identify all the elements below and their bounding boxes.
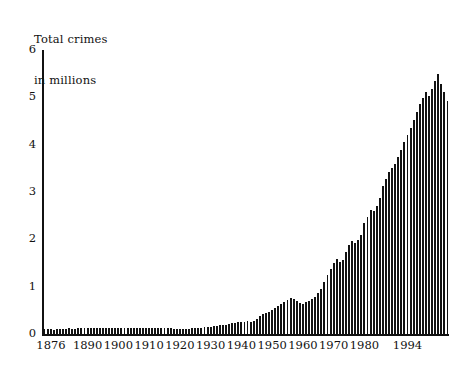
bar (305, 302, 307, 334)
bar (419, 104, 421, 334)
bar (379, 198, 381, 334)
bar (222, 325, 224, 334)
bar (440, 84, 442, 334)
bar (290, 298, 292, 334)
bar (403, 142, 405, 334)
bar (210, 327, 212, 334)
bar (394, 164, 396, 334)
bar (204, 327, 206, 334)
y-tick-label: 0 (14, 328, 36, 340)
bar (237, 322, 239, 334)
y-tick-label: 6 (14, 44, 36, 56)
bar (437, 74, 439, 334)
bar (308, 301, 310, 334)
bar (431, 89, 433, 334)
x-tick-label: 1980 (350, 339, 379, 352)
y-tick-label: 3 (14, 186, 36, 198)
axis-caption-line-1: Total crimes (34, 33, 108, 47)
bar (351, 241, 353, 334)
x-tick-label: 1970 (319, 339, 348, 352)
bar (271, 310, 273, 334)
x-tick-label: 1876 (36, 339, 65, 352)
bar (327, 275, 329, 334)
bar (345, 252, 347, 334)
bar (428, 96, 430, 334)
bar (293, 299, 295, 334)
bar (314, 297, 316, 334)
bar (391, 168, 393, 334)
y-axis-tick-labels: 0123456 (8, 0, 36, 374)
bar (234, 323, 236, 334)
bar (357, 240, 359, 334)
bar (259, 316, 261, 334)
bar (413, 120, 415, 334)
crime-bar-chart: Total crimes in millions 0123456 1876189… (0, 0, 469, 374)
bar (363, 223, 365, 334)
bar (422, 98, 424, 334)
x-axis-tick-labels: 1876189019001910192019301940195019601970… (0, 339, 469, 359)
x-axis-line (42, 334, 449, 336)
bar (388, 172, 390, 334)
bar (262, 314, 264, 334)
y-tick-label: 4 (14, 139, 36, 151)
bar (287, 300, 289, 334)
bar (447, 101, 449, 334)
bar (339, 262, 341, 334)
x-tick-label: 1950 (258, 339, 287, 352)
bar (397, 157, 399, 335)
bar (317, 293, 319, 334)
bar (410, 128, 412, 334)
bar (216, 326, 218, 334)
bar (333, 263, 335, 334)
bar (416, 112, 418, 334)
bar (207, 327, 209, 334)
bar (443, 92, 445, 334)
bar (219, 325, 221, 334)
bar (407, 135, 409, 334)
bar (382, 186, 384, 334)
x-tick-label: 1910 (134, 339, 163, 352)
bar (299, 303, 301, 334)
x-tick-label: 1890 (73, 339, 102, 352)
x-tick-label: 1960 (288, 339, 317, 352)
x-tick-label: 1920 (165, 339, 194, 352)
bar (244, 322, 246, 334)
bar (320, 289, 322, 334)
bar-series (43, 50, 449, 334)
bar (302, 304, 304, 334)
bar (253, 321, 255, 334)
bar (434, 81, 436, 334)
bar (311, 299, 313, 334)
plot-area (43, 50, 449, 334)
bar (385, 179, 387, 334)
bar (274, 308, 276, 335)
bar (247, 321, 249, 334)
bar (376, 206, 378, 334)
bar (250, 322, 252, 334)
bar (367, 217, 369, 334)
bar (231, 323, 233, 334)
bar (323, 282, 325, 334)
bar (283, 302, 285, 334)
y-tick-label: 1 (14, 281, 36, 293)
bar (370, 210, 372, 334)
bar (400, 150, 402, 334)
bar (240, 322, 242, 334)
bar (280, 304, 282, 334)
x-tick-label: 1900 (104, 339, 133, 352)
x-tick-label: 1994 (393, 339, 422, 352)
x-tick-label: 1930 (196, 339, 225, 352)
bar (373, 211, 375, 334)
bar (342, 260, 344, 334)
bar (268, 312, 270, 334)
bar (360, 235, 362, 334)
x-tick-label: 1940 (227, 339, 256, 352)
bar (296, 301, 298, 334)
bar (354, 243, 356, 334)
bar (256, 319, 258, 334)
bar (330, 269, 332, 334)
bar (213, 326, 215, 334)
y-tick-label: 2 (14, 233, 36, 245)
bar (277, 306, 279, 334)
bar (225, 325, 227, 334)
